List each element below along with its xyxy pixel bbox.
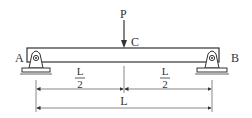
support-a-label: A <box>15 51 24 65</box>
beam-diagram: P C A B L 2 L 2 L <box>0 0 252 118</box>
svg-text:L: L <box>120 94 127 108</box>
load-label: P <box>120 7 127 21</box>
svg-text:L: L <box>162 65 169 77</box>
point-load: P <box>120 7 127 48</box>
support-b-label: B <box>231 51 239 65</box>
svg-text:L: L <box>77 65 84 77</box>
arrow-down-icon <box>121 40 127 48</box>
beam <box>27 48 219 62</box>
dimension-total: L <box>37 94 211 108</box>
svg-text:2: 2 <box>77 78 83 90</box>
svg-text:2: 2 <box>162 78 168 90</box>
point-c-label: C <box>131 35 139 49</box>
